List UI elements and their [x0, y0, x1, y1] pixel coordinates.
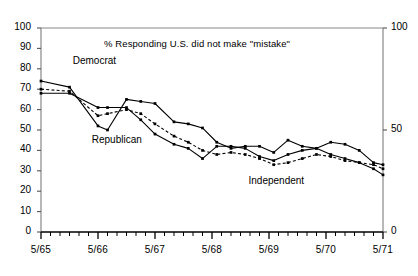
chart-title: % Responding U.S. did not make "mistake"	[104, 38, 290, 49]
x-axis-label-5-71: 5/71	[363, 244, 403, 255]
y-axis-label-40: 40	[5, 143, 31, 154]
y-axis-label-10: 10	[5, 205, 31, 216]
y-axis-label-20: 20	[5, 184, 31, 195]
x-axis-label-5-68: 5/68	[192, 244, 232, 255]
y-axis-label-50: 50	[5, 123, 31, 134]
x-axis-label-5-69: 5/69	[249, 244, 289, 255]
y-axis-right-label-50: 50	[391, 123, 417, 134]
annotation-independent: Independent	[249, 175, 305, 186]
y-axis-label-90: 90	[5, 41, 31, 52]
y-axis-label-0: 0	[5, 225, 31, 236]
series-independent	[40, 88, 385, 170]
annotation-democrat: Democrat	[73, 55, 116, 66]
chart-container: 01020304050607080901000501005/655/665/67…	[0, 0, 418, 276]
x-axis-label-5-70: 5/70	[306, 244, 346, 255]
y-axis-label-80: 80	[5, 62, 31, 73]
y-axis-label-100: 100	[5, 21, 31, 32]
annotation-republican: Republican	[92, 134, 142, 145]
x-axis-label-5-66: 5/66	[78, 244, 118, 255]
y-axis-label-30: 30	[5, 164, 31, 175]
y-axis-right-label-0: 0	[391, 225, 417, 236]
y-axis-label-70: 70	[5, 82, 31, 93]
series-republican	[40, 80, 385, 166]
x-axis-label-5-67: 5/67	[135, 244, 175, 255]
x-axis-label-5-65: 5/65	[21, 244, 61, 255]
y-axis-right-label-100: 100	[391, 21, 417, 32]
x-axis-ticks	[41, 232, 383, 239]
y-axis-label-60: 60	[5, 103, 31, 114]
